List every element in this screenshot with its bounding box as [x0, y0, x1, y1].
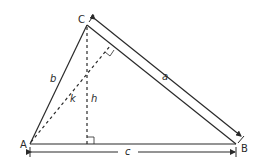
right-angle-marker-k [105, 50, 114, 56]
triangle-diagram: C A B b a c k h [0, 0, 256, 166]
side-label-b: b [50, 73, 56, 84]
side-a-line [87, 25, 236, 144]
segment-label-h: h [91, 93, 97, 104]
dimension-a-tick-bottom [238, 136, 244, 143]
vertex-label-c: C [78, 14, 85, 25]
segment-label-k: k [70, 93, 77, 104]
vertex-label-b: B [241, 143, 248, 154]
dimension-a-tick-top [89, 15, 94, 22]
right-angle-marker-h [87, 137, 94, 144]
side-label-a: a [162, 71, 168, 82]
side-label-c: c [125, 146, 131, 157]
vertex-label-a: A [20, 139, 27, 150]
